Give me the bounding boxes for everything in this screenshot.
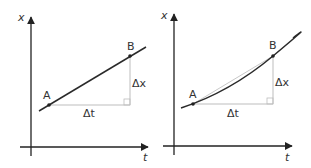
- delta-t-label: Δt: [83, 107, 96, 120]
- secant-chord: [193, 56, 273, 104]
- delta-t-label: Δt: [227, 107, 240, 120]
- panel-curved: x t A B Δt Δx: [160, 9, 301, 164]
- point-a-label: A: [43, 89, 51, 102]
- point-a: [191, 102, 195, 106]
- point-b: [271, 54, 275, 58]
- x-axis-label: x: [17, 11, 25, 24]
- point-a: [47, 103, 51, 107]
- x-axis-label: x: [160, 9, 168, 22]
- point-a-label: A: [189, 88, 197, 101]
- right-angle-marker: [124, 99, 130, 105]
- t-axis-label: t: [143, 151, 148, 164]
- delta-x-label: Δx: [132, 77, 147, 90]
- right-angle-marker: [267, 98, 273, 104]
- delta-x-label: Δx: [275, 76, 290, 89]
- t-axis-label: t: [285, 151, 290, 164]
- point-b-label: B: [269, 39, 277, 52]
- point-b-label: B: [127, 40, 135, 53]
- curved-graph-line: [181, 32, 301, 108]
- point-b: [128, 54, 132, 58]
- panel-linear: x t A B Δt Δx: [17, 11, 148, 164]
- diagram-canvas: x t A B Δt Δx x t A B Δt Δx: [0, 0, 311, 168]
